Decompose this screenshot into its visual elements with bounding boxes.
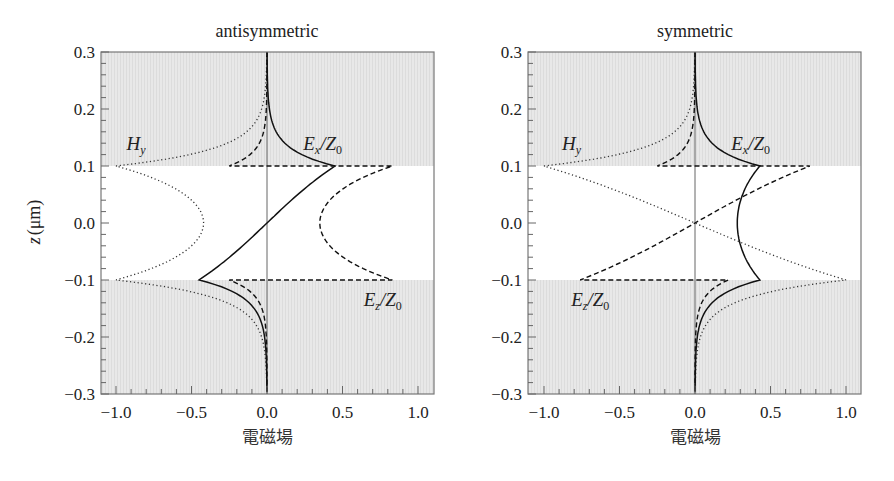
x-axis-label: 電磁場 — [670, 427, 721, 447]
panel-antisymmetric: antisymmetric −1.0−0.50.00.51.00.30.20.1… — [24, 21, 434, 447]
panel-title: symmetric — [657, 21, 733, 41]
x-tick-label: −0.5 — [604, 403, 635, 422]
y-tick-label: −0.3 — [64, 385, 95, 404]
y-tick-label: 0.2 — [501, 100, 522, 119]
y-tick-label: −0.1 — [491, 271, 522, 290]
y-tick-label: −0.2 — [64, 328, 95, 347]
svg-text:z(μm): z(μm) — [24, 200, 45, 246]
x-axis-label: 電磁場 — [242, 427, 293, 447]
y-tick-label: 0.0 — [74, 214, 95, 233]
x-tick-label: 1.0 — [835, 403, 856, 422]
x-tick-label: −1.0 — [101, 403, 132, 422]
panel-symmetric: symmetric −1.0−0.50.00.51.00.30.20.10.0−… — [491, 21, 861, 447]
y-tick-label: 0.1 — [74, 157, 95, 176]
y-tick-label: 0.2 — [74, 100, 95, 119]
x-tick-label: 1.0 — [407, 403, 428, 422]
figure: antisymmetric −1.0−0.50.00.51.00.30.20.1… — [0, 0, 894, 481]
y-tick-label: −0.3 — [491, 385, 522, 404]
panel-title: antisymmetric — [216, 21, 319, 41]
y-tick-label: −0.1 — [64, 271, 95, 290]
x-tick-label: 0.0 — [256, 403, 277, 422]
x-tick-label: −0.5 — [176, 403, 207, 422]
y-tick-label: 0.0 — [501, 214, 522, 233]
x-tick-label: 0.5 — [760, 403, 781, 422]
y-axis-label: z(μm) — [24, 200, 45, 246]
y-tick-label: 0.3 — [74, 43, 95, 62]
y-tick-label: 0.3 — [501, 43, 522, 62]
y-tick-label: 0.1 — [501, 157, 522, 176]
x-tick-label: 0.5 — [332, 403, 353, 422]
x-tick-label: 0.0 — [684, 403, 705, 422]
y-tick-label: −0.2 — [491, 328, 522, 347]
x-tick-label: −1.0 — [529, 403, 560, 422]
